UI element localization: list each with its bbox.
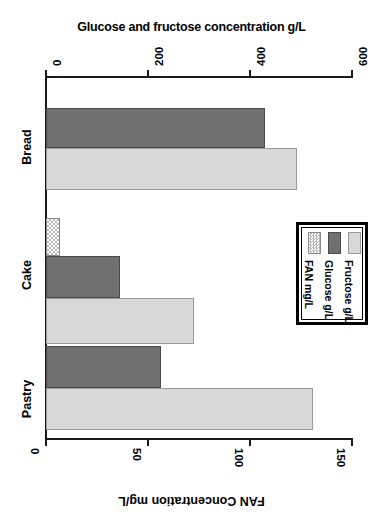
legend-entry-fructose: Fructose g/L <box>345 230 365 320</box>
top-value-axis-spine <box>45 76 353 78</box>
top-axis-tick-label: 600 <box>357 47 369 66</box>
legend-label: FAN mg/L <box>303 260 315 309</box>
top-axis-tick <box>45 70 47 77</box>
top-axis-tick-label: 0 <box>51 60 63 66</box>
top-axis-tick-label: 400 <box>255 47 267 66</box>
dark-gray-swatch <box>328 232 341 254</box>
bar-fan-cake <box>46 218 60 256</box>
bar-fructose-cake <box>46 298 194 344</box>
bottom-axis-tick <box>249 439 251 446</box>
legend-box: Fructose g/LGlucose g/LFAN mg/L <box>296 222 368 325</box>
bar-glucose-cake <box>46 256 120 298</box>
category-label-cake: Cake <box>20 248 34 302</box>
bottom-axis-tick-label: 150 <box>335 448 347 467</box>
bar-glucose-bread <box>46 108 265 148</box>
bottom-axis-tick <box>45 439 47 446</box>
legend-entry-fan: FAN mg/L <box>305 230 325 320</box>
bar-fructose-pastry <box>46 388 313 430</box>
top-axis-tick-label: 200 <box>153 47 165 66</box>
bottom-axis-title: FAN Concentration mg/L <box>0 494 383 508</box>
bottom-value-axis-spine <box>45 438 353 440</box>
top-axis-tick <box>351 70 353 77</box>
light-gray-swatch <box>348 232 361 254</box>
bottom-axis-tick <box>351 439 353 446</box>
bottom-axis-tick-label: 50 <box>131 448 143 461</box>
bottom-axis-tick <box>147 439 149 446</box>
bar-glucose-pastry <box>46 346 161 388</box>
category-label-pastry: Pastry <box>20 372 34 426</box>
top-axis-title: Glucose and fructose concentration g/L <box>0 20 383 34</box>
bar-chart-figure: Glucose and fructose concentration g/L F… <box>0 0 383 532</box>
bar-fructose-bread <box>46 148 297 190</box>
category-label-bread: Bread <box>20 120 34 174</box>
dotted-swatch <box>308 232 321 254</box>
legend-entry-glucose: Glucose g/L <box>325 230 345 320</box>
top-axis-tick <box>249 70 251 77</box>
top-axis-tick <box>147 70 149 77</box>
bottom-axis-tick-label: 100 <box>233 448 245 467</box>
bottom-axis-tick-label: 0 <box>29 448 41 454</box>
